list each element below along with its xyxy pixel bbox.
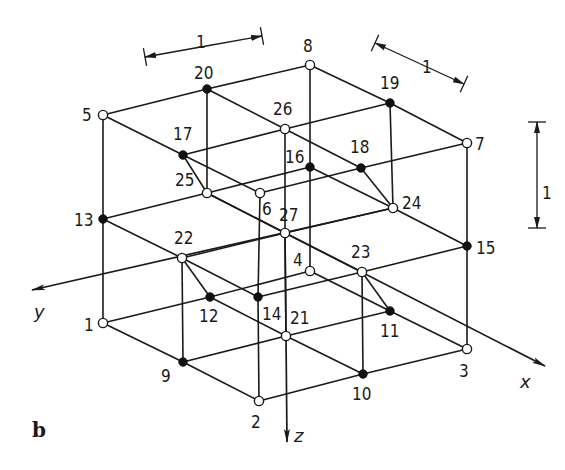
- edge-16-24: [310, 167, 393, 208]
- node-17: [179, 151, 187, 159]
- dimension-label: 1: [542, 183, 552, 203]
- node-label-16: 16: [285, 147, 304, 167]
- edge-13-22: [103, 219, 182, 258]
- edge-20-8: [207, 65, 310, 89]
- edge-9-2: [183, 362, 259, 401]
- node-26: [280, 124, 289, 133]
- dimension-z-direction: 1: [528, 122, 552, 228]
- node-label-23: 23: [351, 242, 370, 262]
- node-label-10: 10: [352, 384, 371, 404]
- node-10: [359, 370, 367, 378]
- edge-2-10: [259, 374, 363, 401]
- node-20: [203, 85, 211, 93]
- edge-17-26: [183, 129, 285, 155]
- x-axis-label: x: [519, 371, 531, 392]
- edge-21-10: [286, 336, 363, 374]
- node-label-15: 15: [476, 238, 495, 258]
- edge-13-25: [103, 193, 207, 219]
- node-label-26: 26: [273, 99, 292, 119]
- node-22: [177, 253, 186, 262]
- node-label-12: 12: [199, 306, 218, 326]
- edge-22-12: [182, 258, 210, 297]
- y-axis-label: y: [33, 301, 45, 322]
- node-label-14: 14: [262, 304, 281, 324]
- edge-10-3: [363, 349, 467, 374]
- node-label-6: 6: [262, 199, 272, 219]
- dimension-markers: 111: [143, 27, 551, 228]
- node-27: [280, 228, 289, 237]
- node-21: [281, 331, 290, 340]
- node-label-5: 5: [82, 105, 92, 125]
- z-axis-label: z: [293, 425, 304, 446]
- node-11: [386, 307, 394, 315]
- edge-18-24: [361, 168, 393, 208]
- node-label-13: 13: [74, 210, 93, 230]
- node-label-9: 9: [161, 366, 171, 386]
- edge-22-14: [182, 258, 258, 297]
- node-12: [206, 293, 214, 301]
- node-label-24: 24: [402, 193, 421, 213]
- node-2: [254, 396, 263, 405]
- node-25: [202, 188, 211, 197]
- edge-6-14: [258, 193, 260, 297]
- node-label-2: 2: [251, 412, 261, 432]
- edge-23-11: [362, 272, 390, 311]
- edge-22-9: [182, 258, 183, 362]
- panel-label: b: [32, 418, 46, 442]
- node-3: [462, 344, 471, 353]
- node-label-8: 8: [303, 36, 313, 56]
- node-18: [357, 164, 365, 172]
- node-label-17: 17: [173, 124, 192, 144]
- node-23: [357, 267, 366, 276]
- node-15: [463, 242, 471, 250]
- node-label-25: 25: [175, 170, 194, 190]
- edge-8-19: [310, 65, 390, 103]
- node-label-27: 27: [279, 205, 298, 225]
- node-label-19: 19: [380, 73, 399, 93]
- node-label-4: 4: [293, 250, 303, 270]
- edge-19-7: [390, 103, 467, 143]
- node-8: [305, 60, 314, 69]
- node-4: [305, 266, 314, 275]
- edge-26-19: [285, 103, 390, 129]
- edge-4-11: [310, 271, 390, 311]
- node-14: [254, 293, 262, 301]
- node-7: [462, 138, 471, 147]
- edge-23-10: [362, 272, 363, 374]
- node-label-20: 20: [194, 63, 213, 83]
- node-16: [306, 163, 314, 171]
- edge-19-24: [390, 103, 393, 208]
- edge-11-3: [390, 311, 467, 349]
- edge-23-15: [362, 246, 467, 272]
- node-6: [255, 188, 264, 197]
- node-5: [98, 110, 107, 119]
- edge-5-17: [103, 115, 183, 155]
- node-label-1: 1: [84, 315, 94, 335]
- node-label-7: 7: [475, 134, 485, 154]
- node-13: [99, 215, 107, 223]
- node-label-11: 11: [380, 321, 399, 341]
- node-24: [388, 203, 397, 212]
- edge-1-12: [103, 297, 210, 323]
- edge-5-20: [103, 89, 207, 115]
- dimension-label: 1: [196, 32, 206, 52]
- edge-24-15: [393, 208, 467, 246]
- node-9: [179, 358, 187, 366]
- edge-9-21: [183, 336, 286, 362]
- node-1: [98, 318, 107, 327]
- edge-1-9: [103, 323, 183, 362]
- node-19: [386, 99, 394, 107]
- node-label-22: 22: [174, 228, 193, 248]
- node-label-21: 21: [290, 308, 309, 328]
- node-label-18: 18: [350, 137, 369, 157]
- edge-14-2: [258, 297, 259, 401]
- edge-18-7: [361, 143, 467, 168]
- dimension-label: 1: [422, 57, 432, 77]
- lattice-diagram: xyz 111 12345678910111213141516171819202…: [0, 0, 565, 470]
- node-label-3: 3: [459, 361, 469, 381]
